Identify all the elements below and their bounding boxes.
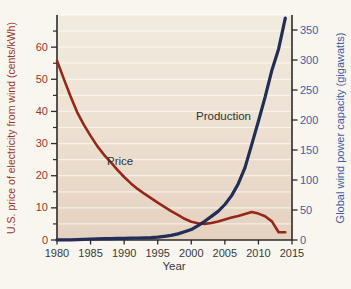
production-line bbox=[57, 18, 285, 240]
right-tick-label: 350 bbox=[300, 24, 318, 37]
right-tick-label: 50 bbox=[300, 204, 312, 217]
left-tick-label: 50 bbox=[14, 73, 48, 86]
right-tick-label: 200 bbox=[300, 114, 318, 127]
x-tick-label: 2000 bbox=[174, 247, 208, 260]
left-tick-label: 10 bbox=[14, 201, 48, 214]
left-tick-label: 60 bbox=[14, 41, 48, 54]
left-tick-label: 30 bbox=[14, 137, 48, 150]
left-tick-label: 20 bbox=[14, 169, 48, 182]
x-tick-label: 1980 bbox=[40, 247, 74, 260]
right-tick-label: 150 bbox=[300, 144, 318, 157]
right-tick-label: 100 bbox=[300, 174, 318, 187]
x-tick-label: 2010 bbox=[241, 247, 275, 260]
right-tick-label: 0 bbox=[300, 234, 306, 247]
price-series-label: Price bbox=[107, 155, 133, 167]
x-tick-label: 2005 bbox=[208, 247, 242, 260]
x-tick-label: 1990 bbox=[107, 247, 141, 260]
production-series-label: Production bbox=[196, 110, 251, 122]
x-tick-label: 1985 bbox=[74, 247, 108, 260]
left-tick-label: 40 bbox=[14, 105, 48, 118]
left-tick-label: 0 bbox=[14, 234, 48, 247]
x-tick-label: 1995 bbox=[141, 247, 175, 260]
x-tick-label: 2015 bbox=[275, 247, 309, 260]
right-tick-label: 250 bbox=[300, 84, 318, 97]
x-axis-title: Year bbox=[144, 260, 204, 272]
wind-energy-chart-figure: U.S. price of electricity from wind (cen… bbox=[0, 0, 351, 289]
right-axis-title: Global wind power capacity (gigawatts) bbox=[333, 7, 347, 248]
chart-canvas bbox=[0, 0, 351, 289]
right-tick-label: 300 bbox=[300, 54, 318, 67]
